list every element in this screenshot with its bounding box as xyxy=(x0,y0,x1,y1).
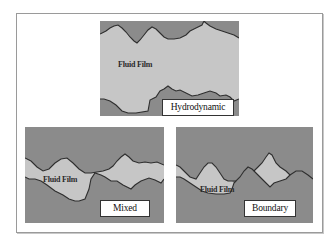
mixed-regime-label: Mixed xyxy=(100,200,150,217)
hydrodynamic-film-label: Fluid Film xyxy=(118,61,152,69)
mixed-film-label: Fluid Film xyxy=(43,176,77,184)
hydrodynamic-regime-label: Hydrodynamic xyxy=(162,99,234,116)
hydrodynamic-panel: Fluid Film Hydrodynamic xyxy=(100,21,239,116)
boundary-top-surface-edge xyxy=(176,153,313,181)
mixed-panel: Fluid Film Mixed xyxy=(25,127,164,223)
boundary-film-label: Fluid Film xyxy=(200,186,234,194)
boundary-panel: Fluid Film Boundary xyxy=(176,127,313,223)
boundary-regime-label: Boundary xyxy=(244,200,296,217)
